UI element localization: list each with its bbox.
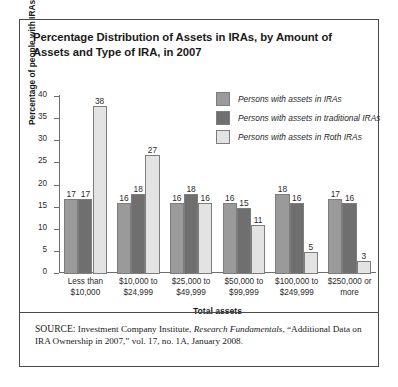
bar-value-label: 16: [172, 193, 181, 203]
bar-group: 161816: [170, 97, 213, 274]
y-tick-25: 25: [54, 162, 59, 163]
bar[interactable]: 16: [342, 203, 356, 274]
figure-panel: Percentage Distribution of Assets in IRA…: [19, 19, 379, 367]
bar[interactable]: 18: [275, 194, 289, 274]
y-tick-40: 40: [54, 96, 59, 97]
bar-group: 161511: [223, 97, 266, 274]
bar[interactable]: 17: [64, 199, 78, 274]
y-axis-line: [59, 95, 60, 273]
bar-value-label: 15: [239, 198, 248, 208]
bar-value-label: 16: [225, 193, 234, 203]
y-tick-15: 15: [54, 207, 59, 208]
bar-value-label: 27: [148, 145, 157, 155]
y-tick-label-40: 40: [38, 90, 47, 99]
x-axis-title: Total assets: [59, 306, 376, 316]
bar[interactable]: 16: [198, 203, 212, 274]
y-tick-35: 35: [54, 118, 59, 119]
bar-value-label: 17: [81, 189, 90, 199]
y-tick-label-5: 5: [42, 245, 47, 254]
bar[interactable]: 5: [304, 252, 318, 274]
bar[interactable]: 16: [170, 203, 184, 274]
bar[interactable]: 18: [184, 194, 198, 274]
bar-value-label: 17: [67, 189, 76, 199]
y-tick-label-25: 25: [38, 156, 47, 165]
bar-value-label: 18: [186, 184, 195, 194]
x-axis-label: $250,000 or more: [318, 277, 381, 298]
bar-value-label: 16: [292, 193, 301, 203]
source-publication: Research Fundamentals: [194, 324, 283, 334]
bar-group: 17163: [328, 97, 371, 274]
bar-value-label: 3: [361, 251, 366, 261]
bar[interactable]: 17: [328, 199, 342, 274]
bar[interactable]: 16: [223, 203, 237, 274]
bar-value-label: 38: [95, 96, 104, 106]
bar[interactable]: 27: [145, 155, 159, 274]
chart-title: Percentage Distribution of Assets in IRA…: [33, 30, 365, 60]
y-tick-label-10: 10: [38, 223, 47, 232]
source-note: SOURCE: Investment Company Institute, Re…: [35, 323, 365, 348]
bar[interactable]: 11: [251, 225, 265, 274]
plot-area: Percentage of people with IRAs 051015202…: [59, 95, 376, 275]
y-tick-label-20: 20: [38, 179, 47, 188]
source-label: SOURCE:: [35, 323, 76, 334]
y-tick-20: 20: [54, 185, 59, 186]
y-tick-label-15: 15: [38, 201, 47, 210]
y-tick-5: 5: [54, 251, 59, 252]
y-tick-label-0: 0: [42, 267, 47, 276]
bar[interactable]: 3: [357, 261, 371, 274]
bar[interactable]: 15: [237, 208, 251, 274]
y-axis-title: Percentage of people with IRAs: [27, 5, 37, 125]
bar-value-label: 16: [345, 193, 354, 203]
bar-value-label: 17: [331, 189, 340, 199]
bar-value-label: 18: [134, 184, 143, 194]
bar-value-label: 5: [309, 242, 314, 252]
bar-group: 161827: [117, 97, 160, 274]
y-tick-label-30: 30: [38, 134, 47, 143]
bar[interactable]: 17: [78, 199, 92, 274]
footer-divider: [20, 312, 378, 313]
bar[interactable]: 16: [290, 203, 304, 274]
bar-group: 18165: [275, 97, 318, 274]
bar-value-label: 11: [254, 215, 263, 225]
bar-group: 171738: [64, 97, 107, 274]
y-tick-30: 30: [54, 140, 59, 141]
bar[interactable]: 16: [117, 203, 131, 274]
bar-value-label: 16: [201, 193, 210, 203]
y-tick-0: 0: [54, 273, 59, 274]
bar[interactable]: 18: [131, 194, 145, 274]
y-tick-label-35: 35: [38, 112, 47, 121]
source-text-part1: Investment Company Institute,: [76, 324, 194, 334]
bar-value-label: 18: [278, 184, 287, 194]
y-tick-10: 10: [54, 229, 59, 230]
bar-value-label: 16: [119, 193, 128, 203]
bar[interactable]: 38: [93, 106, 107, 274]
